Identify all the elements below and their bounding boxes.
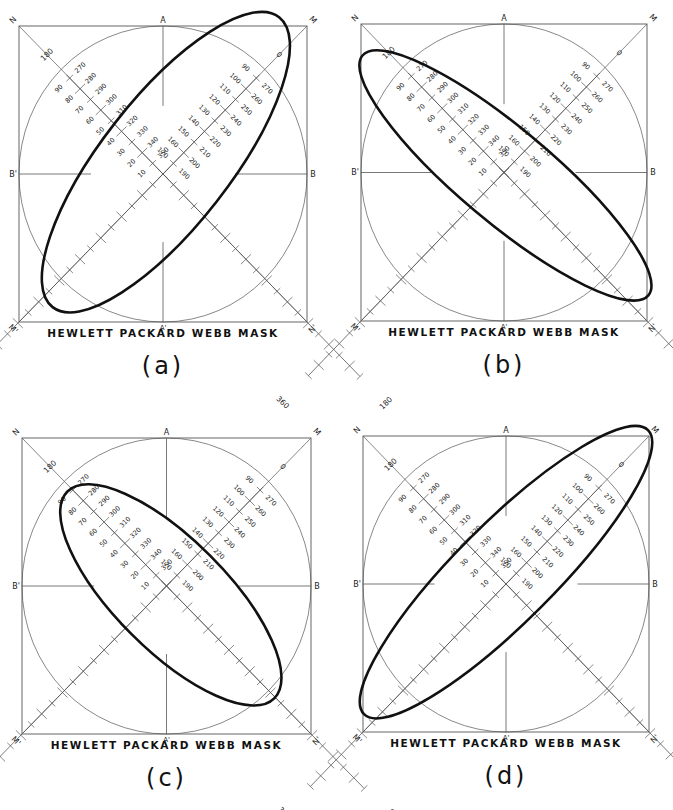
scale-label: 250 [582,513,596,527]
scale-label: 20 [469,567,481,579]
panel-label: (b) [361,351,647,379]
scale-label: 270 [602,491,616,505]
panel-a: NMM'N'AA'B'B9027010026011025012024013023… [19,26,307,392]
scale-label: 30 [459,557,471,569]
scale-label: 110 [218,82,232,96]
scale-label: 250 [580,101,594,115]
panel-c: NMM'N'AA'B'B9027010026011025012024013023… [22,438,311,804]
scale-label: 80 [64,93,76,105]
scale-label: 100 [232,483,246,497]
scale-label: 240 [232,525,246,539]
scale-far-end-label: 180 [378,395,395,412]
webb-mask-diagram: NMM'N'AA'B'B9027010026011025012024013023… [19,26,307,322]
scale-label: 40 [446,134,458,146]
scale-label: 160 [166,135,180,149]
corner-label-n-prime: N' [647,322,659,334]
corner-label-m-prime: M' [10,735,23,748]
scale-label: 20 [126,157,138,169]
scale-label: 250 [239,103,253,117]
axis-label-b: B [650,168,656,177]
scale-label: 320 [128,526,142,540]
corner-label-m: M [307,14,318,25]
scale-label: 260 [253,504,267,518]
scale-label: 230 [561,534,575,548]
scale-label: 290 [435,80,449,94]
scale-label: 20 [129,569,141,581]
scale-label: 190 [518,165,532,179]
scale-label: 60 [88,527,100,539]
scale-label: 270 [600,79,614,93]
scale-label: 80 [407,503,419,515]
ne-scale: 9027010026011025012024013023014022015021… [0,462,288,810]
scale-label: 230 [559,122,573,136]
scale-label: 90 [395,81,407,93]
scale-label: 10 [477,166,489,178]
webb-mask-diagram: NMM'N'AA'B'B9027010026011025012024013023… [22,438,311,734]
corner-label-n: N [352,425,363,436]
scale-label: 330 [135,124,149,138]
scale-label: 80 [405,92,417,104]
scale-label: 140 [527,112,541,126]
axis-label-a: A [503,426,509,435]
scale-label: 200 [530,566,544,580]
scale-label: 40 [108,548,120,560]
axis-label-a: A [160,16,166,25]
scale-label: 260 [592,502,606,516]
scale-label: 280 [427,481,441,495]
scale-label: 300 [446,91,460,105]
scale-label: 100 [568,69,582,83]
corner-label-n: N [8,15,19,26]
panel-label: (c) [22,764,311,792]
scale-label: 160 [169,547,183,561]
scale-label: 30 [457,145,469,157]
scale-label: 240 [571,523,585,537]
scale-label: 240 [229,113,243,127]
scale-label: 330 [477,123,491,137]
scale-label: 300 [108,504,122,518]
scale-label: 160 [507,134,521,148]
webb-mask-diagram: NMM'N'AA'B'B9027010026011025012024013023… [361,24,647,321]
corner-label-n-prime: N' [311,735,323,747]
scale-label: 160 [509,545,523,559]
scale-label: 130 [539,513,553,527]
mask-caption: HEWLETT PACKARD WEBB MASK [22,739,311,751]
scale-label: 40 [105,136,117,148]
scale-label: 210 [198,145,212,159]
scale-label: 310 [456,101,470,115]
scale-far-end-label: 360 [276,805,293,810]
scale-label: 100 [570,481,584,495]
scale-label: 310 [118,515,132,529]
scale-label: 70 [74,104,86,116]
scale-label: 110 [560,492,574,506]
scale-label: 10 [479,578,491,590]
corner-label-m: M [311,426,322,437]
corner-label-m-prime: M' [349,322,362,335]
scale-label: 140 [186,114,200,128]
webb-mask-diagram: NMM'N'AA'B'B9027010026011025012024013023… [363,436,649,732]
scale-label: 70 [77,516,89,528]
scale-label: 20 [467,156,479,168]
scale-label: 200 [187,156,201,170]
scale-label: 120 [548,91,562,105]
scale-label: 60 [426,113,438,125]
corner-label-m-prime: M' [351,733,364,746]
scale-label: 120 [550,502,564,516]
scale-label: 90 [582,472,594,484]
scale-label: 80 [67,505,79,517]
scale-far-end-label: 360 [274,394,291,411]
scale-tick [666,750,673,760]
scale-label: 30 [119,559,131,571]
corner-label-n-prime: N' [649,733,661,745]
scale-label: 130 [201,515,215,529]
scale-label: 70 [417,514,429,526]
corner-label-m: M [647,12,658,23]
scale-label: 300 [448,502,462,516]
corner-label-n: N [11,427,22,438]
panel-label: (a) [19,352,307,380]
scale-label: 130 [197,103,211,117]
scale-label: 90 [397,493,409,505]
scale-label: 330 [479,534,493,548]
scale-label: 330 [139,536,153,550]
scale-label: 220 [551,545,565,559]
scale-label: 200 [191,568,205,582]
